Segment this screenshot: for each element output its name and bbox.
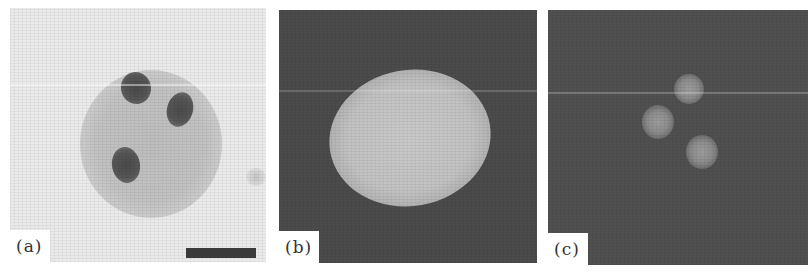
panel-label-c: (c): [554, 239, 580, 259]
panel-label-box: (c): [548, 233, 588, 265]
panel-label-box: (b): [279, 231, 319, 263]
scan-artifact-line: [10, 84, 266, 86]
image-grain: [548, 10, 808, 265]
panel-c-fluorescence-image: (c): [548, 10, 808, 265]
panel-label-b: (b): [285, 237, 312, 257]
scan-artifact-line: [548, 92, 808, 94]
image-grain: [279, 10, 537, 263]
panel-label-a: (a): [16, 236, 42, 256]
scale-bar: [186, 248, 256, 258]
panel-b-fluorescence-image: (b): [279, 10, 537, 263]
image-grain: [10, 8, 266, 262]
scan-artifact-line: [279, 90, 537, 92]
panel-label-box: (a): [10, 230, 50, 262]
panel-a-brightfield-image: (a): [10, 8, 266, 262]
